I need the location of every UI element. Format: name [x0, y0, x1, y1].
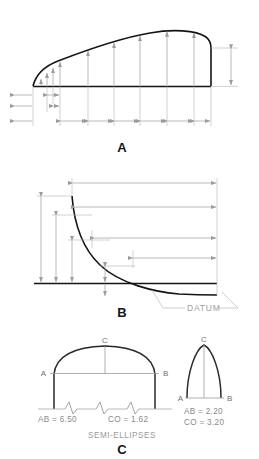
datum-label: DATUM: [187, 303, 221, 313]
technical-diagram-sheet: A: [0, 0, 259, 459]
wide-ellipse-arc: [54, 346, 155, 374]
figure-b-label: B: [117, 305, 126, 320]
wide-ellipse-ground: [38, 402, 172, 414]
narrow-ellipse-point-c: C: [201, 335, 207, 344]
narrow-semi-ellipse: A B C AB = 2.20 CO = 3.20: [178, 335, 233, 427]
wide-semi-ellipse: A B C AB = 6.50 CO = 1.62: [38, 336, 172, 424]
figure-b-vertical-ordinates: [37, 196, 135, 282]
figure-b-horizontal-ordinates: [76, 207, 216, 268]
narrow-ellipse-point-a: A: [178, 394, 184, 403]
figure-a-station-dimensions: [15, 95, 210, 121]
figure-a-label: A: [117, 140, 127, 155]
wide-ellipse-point-b: B: [163, 369, 168, 378]
wide-ellipse-co-label: CO = 1.62: [108, 415, 148, 424]
figure-c: A B C AB = 6.50 CO = 1.62: [38, 335, 232, 457]
wide-ellipse-point-c: C: [102, 336, 108, 345]
figure-b: DATUM B: [34, 178, 238, 320]
figure-a-height-dimension: [211, 48, 238, 86]
narrow-ellipse-co-label: CO = 3.20: [184, 418, 224, 427]
wide-ellipse-point-a: A: [41, 369, 47, 378]
narrow-ellipse-ab-label: AB = 2.20: [184, 407, 223, 416]
figure-a: A: [15, 31, 238, 155]
figure-b-curve: [72, 196, 217, 295]
figure-c-label: C: [117, 442, 127, 457]
figure-c-caption: SEMI-ELLIPSES: [88, 431, 156, 440]
narrow-ellipse-point-b: B: [227, 394, 232, 403]
figure-a-extension-lines: [33, 86, 211, 126]
diagram-canvas: A: [0, 0, 259, 459]
figure-b-top-span-dimension: [72, 178, 216, 196]
wide-ellipse-ab-label: AB = 6.50: [38, 415, 77, 424]
